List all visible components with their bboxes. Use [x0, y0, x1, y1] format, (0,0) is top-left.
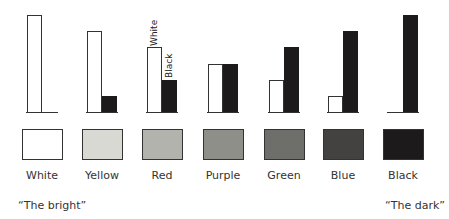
- color-swatch: [203, 129, 244, 160]
- baseline: [26, 112, 58, 113]
- color-label: Red: [132, 169, 192, 182]
- color-swatch: [383, 129, 424, 160]
- black-bar: [102, 96, 117, 112]
- baseline: [146, 112, 178, 113]
- color-swatch: [22, 129, 63, 160]
- color-label: Black: [373, 169, 433, 182]
- brightness-diagram: White Black WhiteYellowRedPurpleGreenBlu…: [0, 0, 449, 219]
- baseline: [268, 112, 300, 113]
- caption-dark: “The dark”: [385, 199, 445, 212]
- white-bar-label: White: [149, 20, 159, 46]
- baseline: [387, 112, 419, 113]
- color-label: Yellow: [72, 169, 132, 182]
- color-label: Blue: [313, 169, 373, 182]
- caption-bright: “The bright”: [18, 199, 86, 212]
- white-bar: [147, 47, 162, 112]
- white-bar: [87, 31, 102, 112]
- color-label: Purple: [193, 169, 253, 182]
- black-bar: [284, 47, 299, 112]
- color-swatch: [82, 129, 123, 160]
- baseline: [207, 112, 239, 113]
- baseline: [327, 112, 359, 113]
- black-bar: [162, 80, 177, 112]
- color-label: White: [12, 169, 72, 182]
- white-bar: [208, 64, 223, 113]
- white-bar: [27, 15, 42, 112]
- black-bar-label: Black: [164, 54, 174, 78]
- white-bar: [269, 80, 284, 112]
- white-bar: [328, 96, 343, 112]
- color-swatch: [142, 129, 183, 160]
- baseline: [86, 112, 118, 113]
- black-bar: [343, 31, 358, 112]
- color-swatch: [264, 129, 305, 160]
- color-label: Green: [254, 169, 314, 182]
- black-bar: [403, 15, 418, 112]
- black-bar: [223, 64, 238, 113]
- color-swatch: [323, 129, 364, 160]
